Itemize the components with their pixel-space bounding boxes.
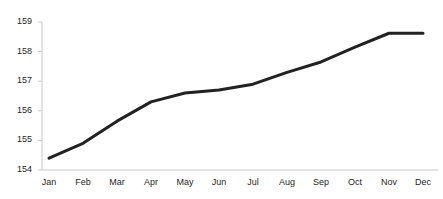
y-tick-label-158: 158 <box>6 47 32 56</box>
data-series-line <box>49 33 423 158</box>
y-tick-label-157: 157 <box>6 76 32 85</box>
x-tick-label-may: May <box>168 178 202 187</box>
x-tick-label-dec: Dec <box>406 178 440 187</box>
x-tick-label-feb: Feb <box>66 178 100 187</box>
x-tick-label-aug: Aug <box>270 178 304 187</box>
x-tick-label-jul: Jul <box>236 178 270 187</box>
y-tick-label-155: 155 <box>6 135 32 144</box>
x-tick-label-jun: Jun <box>202 178 236 187</box>
y-tick-label-154: 154 <box>6 165 32 174</box>
line-chart: 159 158 157 156 155 154 Jan Feb Mar Apr … <box>0 0 443 199</box>
y-tick-label-159: 159 <box>6 17 32 26</box>
x-tick-label-oct: Oct <box>338 178 372 187</box>
chart-plot-area <box>0 0 443 199</box>
y-tick-label-156: 156 <box>6 106 32 115</box>
x-tick-label-apr: Apr <box>134 178 168 187</box>
x-tick-label-jan: Jan <box>32 178 66 187</box>
y-axis-tick-marks <box>38 22 42 170</box>
x-tick-label-sep: Sep <box>304 178 338 187</box>
x-tick-label-mar: Mar <box>100 178 134 187</box>
x-tick-label-nov: Nov <box>372 178 406 187</box>
